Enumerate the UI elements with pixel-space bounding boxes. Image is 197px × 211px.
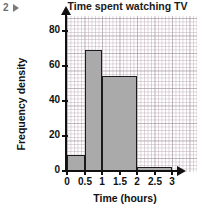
- x-tick-0-5: [84, 171, 86, 175]
- y-tick-label-40: 40: [38, 95, 60, 105]
- y-axis-arrow-icon: [61, 6, 71, 15]
- x-tick-label-3: 3: [161, 176, 183, 188]
- y-tick-60: [62, 65, 68, 67]
- y-tick-label-0: 0: [38, 165, 60, 175]
- plot-area: [67, 16, 197, 172]
- x-tick-1-5: [119, 171, 121, 175]
- y-tick-80: [62, 30, 68, 32]
- x-axis-arrow-icon: [177, 166, 186, 176]
- y-axis-title: Frequency density: [15, 48, 27, 160]
- question-number-marker: 2: [3, 2, 19, 14]
- chart-title: Time spent watching TV: [58, 0, 197, 13]
- x-axis-line: [65, 170, 178, 172]
- x-tick-2-5: [154, 171, 156, 175]
- x-axis-title: Time (hours): [60, 192, 190, 205]
- y-tick-label-20: 20: [38, 130, 60, 140]
- x-tick-1: [101, 171, 103, 175]
- x-tick-3: [171, 171, 173, 175]
- y-axis-line: [65, 14, 67, 172]
- y-tick-40: [62, 100, 68, 102]
- y-tick-20: [62, 135, 68, 137]
- x-tick-2: [136, 171, 138, 175]
- histogram-bar-1: [85, 50, 103, 173]
- x-tick-0: [66, 171, 68, 175]
- y-tick-label-60: 60: [38, 60, 60, 70]
- y-tick-label-80: 80: [38, 25, 60, 35]
- question-number: 2: [3, 2, 10, 13]
- histogram-bar-2: [102, 76, 137, 172]
- play-triangle-icon: [13, 4, 19, 12]
